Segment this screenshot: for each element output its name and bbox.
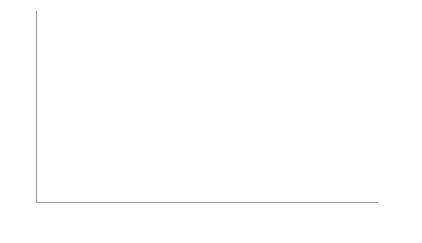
y-axis-title [14,0,28,180]
population-stacked-bar-chart [0,0,422,243]
bar-series-group [37,11,378,202]
plot-frame [36,11,378,203]
x-axis [37,202,378,242]
plot-area [36,11,378,203]
